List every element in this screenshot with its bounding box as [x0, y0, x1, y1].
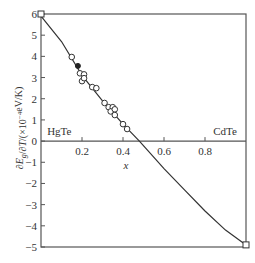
- x-tick-label: 0.2: [75, 145, 89, 157]
- y-axis-ticks: −5−4−3−2−10123456: [25, 8, 45, 253]
- annotation-label: HgTe: [47, 125, 71, 137]
- y-tick-label: 3: [32, 72, 38, 84]
- open-circle-marker: [69, 54, 75, 60]
- y-tick-label: 6: [32, 8, 38, 20]
- y-tick-label: −4: [25, 220, 37, 232]
- y-tick-label: −3: [25, 199, 37, 211]
- open-circle-marker: [94, 85, 100, 91]
- chart: −5−4−3−2−10123456 0.20.40.60.8 HgTeCdTe …: [0, 0, 255, 263]
- filled-circle-marker: [75, 63, 80, 68]
- y-tick-label: 2: [32, 93, 38, 105]
- square-marker: [243, 242, 249, 248]
- open-circle-marker: [124, 126, 130, 132]
- y-axis-label: ∂Eg/∂T/(×10−4eV/K): [13, 87, 29, 170]
- y-tick-label: −2: [25, 177, 37, 189]
- open-circle-marker: [120, 121, 126, 127]
- x-tick-label: 0.8: [198, 145, 212, 157]
- y-tick-label: 4: [32, 50, 38, 62]
- x-axis-label: x: [123, 159, 129, 171]
- y-tick-label: 5: [32, 29, 38, 41]
- open-circle-marker: [112, 112, 118, 118]
- y-tick-label: 0: [32, 135, 38, 147]
- y-tick-label: −5: [25, 241, 37, 253]
- x-axis-ticks: 0.20.40.60.8: [75, 137, 212, 157]
- annotations: HgTeCdTe: [47, 125, 237, 137]
- open-circle-marker: [81, 75, 87, 81]
- annotation-label: CdTe: [213, 125, 237, 137]
- y-tick-label: 1: [32, 114, 38, 126]
- open-circle-marker: [112, 107, 118, 113]
- x-tick-label: 0.4: [116, 145, 130, 157]
- x-tick-label: 0.6: [157, 145, 171, 157]
- square-marker: [38, 11, 44, 17]
